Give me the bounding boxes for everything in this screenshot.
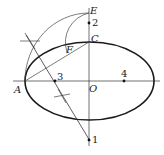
point-1 bbox=[88, 139, 91, 142]
label-4: 4 bbox=[121, 68, 127, 79]
point-4 bbox=[123, 80, 126, 83]
ellipse-construction-figure: E 2 C F A 3 O 4 1 bbox=[0, 0, 164, 155]
label-3: 3 bbox=[57, 71, 63, 82]
label-2: 2 bbox=[92, 17, 98, 28]
diagram-canvas: E 2 C F A 3 O 4 1 bbox=[0, 0, 164, 155]
label-1: 1 bbox=[92, 134, 98, 145]
label-f: F bbox=[65, 44, 74, 55]
label-a: A bbox=[13, 84, 21, 95]
intersection-mark-lower bbox=[54, 89, 70, 103]
label-e: E bbox=[89, 5, 98, 16]
point-2 bbox=[88, 22, 91, 25]
label-o: O bbox=[89, 83, 97, 94]
perpendicular-bisector bbox=[26, 35, 90, 141]
intersection-mark-upper bbox=[20, 33, 40, 49]
label-c: C bbox=[91, 33, 99, 44]
point-3 bbox=[54, 80, 57, 83]
